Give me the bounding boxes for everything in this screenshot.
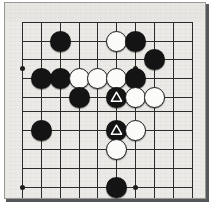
- grid-line-horizontal-1: [22, 22, 192, 23]
- white-stone[interactable]: [125, 120, 146, 141]
- white-stone[interactable]: [106, 68, 127, 89]
- grid-line-vertical-5: [97, 22, 98, 198]
- black-stone-marked-triangle[interactable]: [106, 87, 127, 108]
- black-stone[interactable]: [50, 31, 71, 52]
- board-top-margin-band: [5, 3, 205, 21]
- white-stone[interactable]: [87, 68, 108, 89]
- go-board-diagram: Go board position: [0, 0, 210, 203]
- grid-line-vertical-2: [41, 22, 42, 198]
- board-surface[interactable]: [4, 2, 206, 199]
- black-stone[interactable]: [31, 68, 52, 89]
- white-stone[interactable]: [144, 87, 165, 108]
- white-stone[interactable]: [125, 87, 146, 108]
- triangle-mark-icon: [106, 87, 127, 108]
- grid-line-horizontal-6: [22, 111, 192, 112]
- grid-line-horizontal-9: [22, 168, 192, 169]
- grid-line-vertical-1: [22, 22, 23, 198]
- black-stone[interactable]: [50, 68, 71, 89]
- black-stone[interactable]: [144, 49, 165, 70]
- grid-line-vertical-4: [79, 22, 80, 198]
- star-point-1: [20, 66, 25, 71]
- star-point-4: [133, 185, 138, 190]
- black-stone[interactable]: [69, 87, 90, 108]
- black-stone-marked-triangle[interactable]: [106, 120, 127, 141]
- black-stone[interactable]: [106, 177, 127, 198]
- black-stone[interactable]: [31, 120, 52, 141]
- black-stone[interactable]: [125, 31, 146, 52]
- star-point-3: [20, 185, 25, 190]
- grid-line-horizontal-3: [22, 59, 192, 60]
- grid-line-vertical-10: [192, 22, 193, 198]
- triangle-mark-icon: [106, 120, 127, 141]
- black-stone[interactable]: [125, 68, 146, 89]
- white-stone[interactable]: [106, 31, 127, 52]
- white-stone[interactable]: [106, 139, 127, 160]
- grid-line-vertical-9: [173, 22, 174, 198]
